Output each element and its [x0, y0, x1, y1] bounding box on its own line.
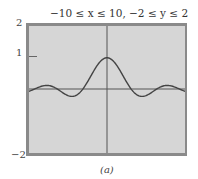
y-tick-label-neg2: −2	[11, 149, 26, 160]
figure-caption: (a)	[100, 164, 114, 175]
y-tick-label-1: 1	[16, 47, 22, 58]
chart-title: −10 ≤ x ≤ 10, −2 ≤ y ≤ 2	[50, 7, 188, 19]
y-tick-label-2: 2	[16, 17, 22, 28]
plot-area	[29, 26, 185, 153]
y-tick-mark-1	[29, 56, 37, 57]
